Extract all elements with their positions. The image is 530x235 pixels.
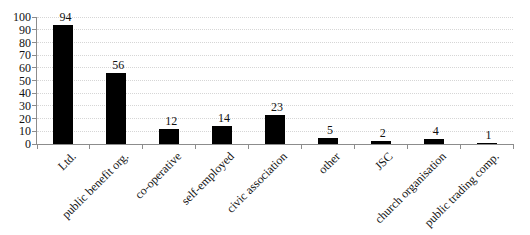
bar-church-organisation [424, 139, 444, 144]
bar-public-trading-comp [477, 143, 497, 144]
x-tick-8 [460, 144, 461, 149]
bar-value-label: 5 [310, 123, 350, 137]
bar-value-label: 12 [151, 114, 191, 128]
bar-civic-association [265, 115, 285, 144]
bar-chart: 010203040506070809010094Ltd.56public ben… [0, 0, 530, 235]
y-axis-label-30: 30 [0, 99, 31, 113]
bar-co-operative [159, 129, 179, 144]
y-axis-label-40: 40 [0, 86, 31, 100]
y-axis-label-70: 70 [0, 48, 31, 62]
y-axis-label-100: 100 [0, 10, 31, 24]
x-tick-0 [37, 144, 38, 149]
x-tick-1 [89, 144, 90, 149]
y-axis-label-90: 90 [0, 23, 31, 37]
gridline-80 [37, 42, 513, 43]
x-tick-6 [354, 144, 355, 149]
bar-value-label: 1 [469, 128, 509, 142]
x-tick-3 [195, 144, 196, 149]
plot-area: 010203040506070809010094Ltd.56public ben… [0, 0, 530, 235]
bar-other [318, 138, 338, 144]
bar-ltd [53, 25, 73, 144]
y-axis-label-20: 20 [0, 112, 31, 126]
bar-public-benefit-org [106, 73, 126, 144]
gridline-100 [37, 17, 513, 18]
x-axis-label: JSC [373, 150, 396, 173]
y-axis-label-10: 10 [0, 124, 31, 138]
bar-value-label: 2 [363, 126, 403, 140]
x-tick-9 [513, 144, 514, 149]
x-tick-4 [248, 144, 249, 149]
y-axis-label-60: 60 [0, 61, 31, 75]
y-axis-label-0: 0 [0, 137, 31, 151]
bar-value-label: 23 [257, 100, 297, 114]
x-axis-line [36, 144, 514, 145]
bar-value-label: 56 [98, 58, 138, 72]
x-axis-label: Ltd. [56, 150, 79, 173]
x-axis-label: other [316, 150, 343, 177]
bar-self-employed [212, 126, 232, 144]
x-tick-5 [301, 144, 302, 149]
bar-jsc [371, 141, 391, 144]
gridline-90 [37, 29, 513, 30]
bar-value-label: 94 [45, 10, 85, 24]
x-tick-2 [142, 144, 143, 149]
y-axis-label-80: 80 [0, 36, 31, 50]
x-tick-7 [407, 144, 408, 149]
y-axis-label-50: 50 [0, 74, 31, 88]
bar-value-label: 14 [204, 111, 244, 125]
y-axis-line [36, 17, 37, 145]
gridline-70 [37, 55, 513, 56]
bar-value-label: 4 [416, 124, 456, 138]
x-axis-label: co-operative [133, 150, 185, 202]
